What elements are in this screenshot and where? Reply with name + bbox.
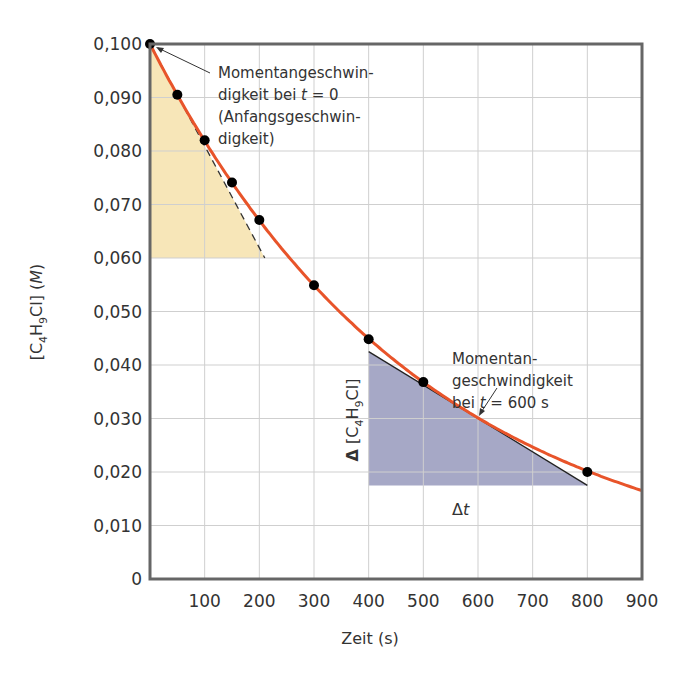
y-tick-label: 0,100 bbox=[93, 34, 142, 54]
data-point bbox=[418, 377, 428, 387]
y-axis-label: [C4H9Cl] (M) bbox=[27, 264, 50, 361]
annotation-initial-rate: Momentangeschwin- digkeit bei t = 0 (Anf… bbox=[218, 64, 379, 148]
x-tick-label: 600 bbox=[462, 591, 494, 611]
x-tick-label: 200 bbox=[243, 591, 275, 611]
y-tick-label: 0,060 bbox=[93, 248, 142, 268]
delta-t-label: Δt bbox=[452, 500, 470, 519]
x-tick-label: 800 bbox=[571, 591, 603, 611]
y-tick-label: 0,050 bbox=[93, 302, 142, 322]
rate-chart: 00,0100,0200,0300,0400,0500,0600,0700,08… bbox=[0, 0, 694, 677]
y-tick-label: 0 bbox=[131, 569, 142, 589]
x-tick-label: 400 bbox=[352, 591, 384, 611]
data-point bbox=[364, 334, 374, 344]
delta-concentration-label: Δ [C4H9Cl] bbox=[343, 379, 366, 462]
annotation-rate-600s: Momentan- geschwindigkeit bei t = 600 s bbox=[452, 350, 578, 412]
data-point bbox=[227, 178, 237, 188]
x-tick-label: 900 bbox=[626, 591, 658, 611]
x-axis-label: Zeit (s) bbox=[341, 629, 398, 648]
annotation-arrow-initial bbox=[158, 48, 210, 73]
y-tick-label: 0,030 bbox=[93, 409, 142, 429]
x-tick-label: 100 bbox=[188, 591, 220, 611]
data-point bbox=[309, 280, 319, 290]
y-tick-label: 0,090 bbox=[93, 88, 142, 108]
y-tick-label: 0,040 bbox=[93, 355, 142, 375]
data-point bbox=[172, 90, 182, 100]
x-tick-label: 300 bbox=[298, 591, 330, 611]
y-tick-label: 0,070 bbox=[93, 195, 142, 215]
data-point bbox=[582, 467, 592, 477]
x-axis-ticks: 100200300400500600700800900 bbox=[188, 591, 658, 611]
y-tick-label: 0,010 bbox=[93, 516, 142, 536]
data-point bbox=[254, 215, 264, 225]
x-tick-label: 700 bbox=[516, 591, 548, 611]
x-tick-label: 500 bbox=[407, 591, 439, 611]
y-axis-ticks: 00,0100,0200,0300,0400,0500,0600,0700,08… bbox=[93, 34, 142, 589]
y-tick-label: 0,080 bbox=[93, 141, 142, 161]
y-tick-label: 0,020 bbox=[93, 462, 142, 482]
data-point bbox=[200, 135, 210, 145]
